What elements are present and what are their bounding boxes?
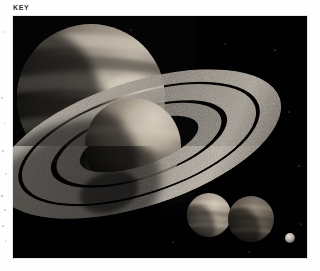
space-scene-svg (13, 16, 307, 258)
space-illustration-plate (13, 16, 307, 258)
key-label: KEY (13, 3, 29, 13)
scan-speckle-artifact (0, 20, 9, 255)
figure-panel: KEY (0, 0, 320, 271)
distant-moonlet (285, 233, 295, 243)
